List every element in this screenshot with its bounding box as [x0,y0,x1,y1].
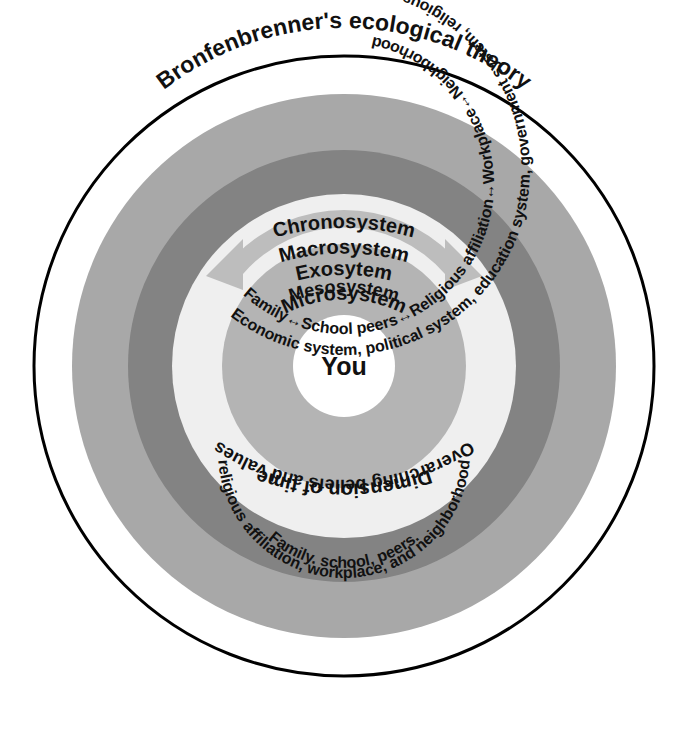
diagram-canvas: Bronfenbrenner's ecological theory Chron… [0,0,687,739]
arrow-icon-3: ↔ [479,183,497,200]
ecological-theory-diagram: Bronfenbrenner's ecological theory Chron… [0,0,687,739]
center-label-you: You [321,352,366,380]
